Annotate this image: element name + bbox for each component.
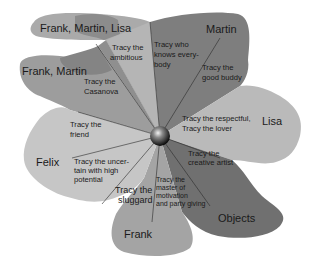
svg-text:Tracy the: Tracy the (115, 185, 152, 195)
group-label-objects: Objects (218, 212, 256, 224)
svg-text:friend: friend (70, 130, 89, 139)
svg-text:Tracy the uncer-: Tracy the uncer- (74, 157, 129, 166)
group-label-frank-martin: Frank, Martin (22, 65, 87, 77)
group-label-lisa: Lisa (262, 115, 283, 127)
svg-text:Tracy who: Tracy who (154, 40, 189, 49)
role-ambitious: Tracy the ambitious (110, 43, 143, 62)
group-label-martin: Martin (206, 23, 237, 35)
svg-text:ambitious: ambitious (110, 53, 143, 62)
svg-text:Tracy the respectful,: Tracy the respectful, (182, 114, 251, 123)
svg-text:Tracy the: Tracy the (156, 176, 185, 184)
role-sluggard: Tracy the sluggard (115, 185, 153, 205)
svg-text:creative artist: creative artist (188, 158, 234, 167)
svg-text:master of: master of (156, 184, 185, 191)
svg-text:Casanova: Casanova (84, 87, 119, 96)
svg-text:motivation: motivation (156, 192, 188, 199)
svg-text:knows every-: knows every- (154, 50, 199, 59)
svg-text:Tracy the: Tracy the (112, 43, 143, 52)
role-casanova: Tracy the Casanova (84, 77, 119, 96)
svg-text:body: body (154, 60, 171, 69)
svg-text:tain with high: tain with high (74, 166, 118, 175)
tracy-roles-diagram: Frank, Martin, Lisa Frank, Martin Martin… (0, 0, 314, 263)
group-label-frank-martin-lisa: Frank, Martin, Lisa (40, 22, 132, 34)
svg-text:sluggard: sluggard (118, 195, 153, 205)
center-sphere (150, 126, 170, 146)
svg-text:Tracy the: Tracy the (188, 149, 219, 158)
svg-text:Tracy the: Tracy the (84, 77, 115, 86)
group-label-frank: Frank (124, 228, 153, 240)
svg-text:Tracy the: Tracy the (202, 63, 233, 72)
svg-text:Tracy the lover: Tracy the lover (182, 124, 232, 133)
svg-text:good buddy: good buddy (202, 73, 242, 82)
svg-text:potential: potential (74, 175, 103, 184)
svg-text:Tracy the: Tracy the (70, 120, 101, 129)
svg-text:and party giving: and party giving (156, 200, 206, 208)
group-label-felix: Felix (36, 156, 60, 168)
